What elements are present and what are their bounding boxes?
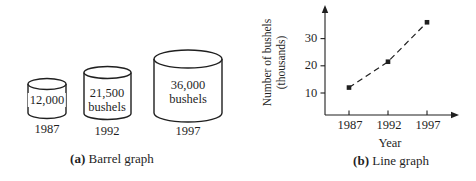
- textbook-figure: 12,000 21,500 bushels 36,000 bushels 198…: [0, 0, 476, 181]
- line-graph-caption: (b) Line graph: [353, 153, 429, 169]
- data-point-marker: [425, 20, 430, 25]
- data-point-marker: [347, 85, 352, 90]
- x-tick-label-1987: 1987: [338, 118, 363, 133]
- y-axis-title-line2: (thousands): [274, 8, 288, 118]
- y-tick-label-30: 30: [305, 31, 318, 46]
- y-axis-title-line1: Number of bushels: [261, 8, 275, 118]
- caption-b-prefix: (b): [353, 153, 369, 168]
- y-axis-title: Number of bushels (thousands): [261, 8, 288, 118]
- data-point-marker: [386, 59, 391, 64]
- y-axis-arrow-icon: [322, 5, 328, 13]
- x-axis-arrow-icon: [451, 112, 459, 118]
- y-tick-label-10: 10: [305, 86, 318, 101]
- y-tick-label-20: 20: [305, 58, 318, 73]
- x-tick-label-1997: 1997: [416, 118, 441, 133]
- x-tick-label-1992: 1992: [377, 118, 402, 133]
- line-graph-panel: Number of bushels (thousands) 30 20 10 1…: [0, 0, 476, 181]
- caption-b-text: Line graph: [372, 153, 429, 168]
- x-axis-title: Year: [378, 136, 401, 151]
- data-line-dashed: [349, 22, 427, 87]
